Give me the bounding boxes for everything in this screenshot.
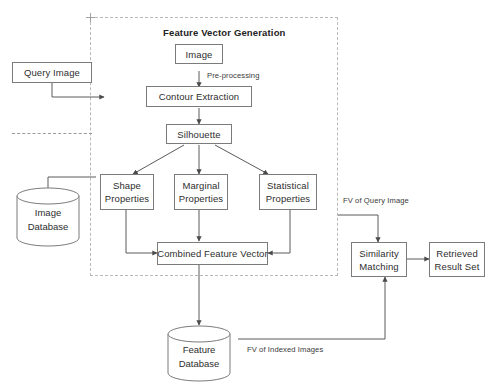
node-silhouette[interactable]: Silhouette [166, 124, 232, 144]
node-shape-properties[interactable]: Shape Properties [100, 174, 154, 210]
node-query-image-label: Query Image [24, 66, 80, 79]
edge-label-fv-of-indexed-images: FV of Indexed Images [247, 345, 323, 354]
image-database-cylinder[interactable]: Image Database [15, 186, 81, 248]
diagram-canvas: Feature Vector Generation [0, 0, 496, 385]
node-similarity-matching-label-line2: Matching [359, 260, 398, 273]
offline-online-divider [12, 133, 92, 134]
image-database-label-line1: Image [15, 206, 81, 220]
node-retrieved-result-set-label-line1: Retrieved [436, 247, 478, 260]
corner-crosshair-marker [86, 13, 95, 22]
node-shape-properties-label-line1: Shape [113, 179, 141, 192]
feature-database-label-line1: Feature [166, 343, 232, 357]
node-statistical-properties[interactable]: Statistical Properties [259, 174, 317, 210]
wire-feature-database-to-similarity [238, 277, 385, 339]
node-retrieved-result-set-label-line2: Result Set [435, 260, 480, 273]
node-marginal-properties-label-line2: Properties [179, 192, 223, 205]
node-contour-extraction[interactable]: Contour Extraction [146, 86, 252, 107]
node-similarity-matching[interactable]: Similarity Matching [351, 242, 407, 277]
node-retrieved-result-set[interactable]: Retrieved Result Set [429, 242, 485, 277]
wire-fv-query-to-similarity [338, 215, 378, 242]
node-statistical-properties-label-line1: Statistical [267, 179, 309, 192]
feature-database-cylinder[interactable]: Feature Database [166, 325, 232, 383]
node-query-image[interactable]: Query Image [12, 62, 92, 83]
node-image-label: Image [186, 48, 213, 61]
node-combined-feature-vector-label: Combined Feature Vector [157, 247, 268, 260]
edge-label-fv-of-query-image: FV of Query Image [343, 196, 409, 205]
node-shape-properties-label-line2: Properties [105, 192, 149, 205]
node-similarity-matching-label-line1: Similarity [359, 247, 399, 260]
node-image[interactable]: Image [175, 44, 223, 64]
edge-label-pre-processing: Pre-processing [207, 71, 259, 80]
node-marginal-properties-label-line1: Marginal [182, 179, 219, 192]
node-statistical-properties-label-line2: Properties [266, 192, 310, 205]
feature-vector-generation-group-title: Feature Vector Generation [163, 27, 286, 38]
node-contour-extraction-label: Contour Extraction [159, 90, 239, 103]
feature-database-label-line2: Database [166, 357, 232, 371]
node-silhouette-label: Silhouette [177, 128, 220, 141]
node-marginal-properties[interactable]: Marginal Properties [174, 174, 228, 210]
image-database-label-line2: Database [15, 220, 81, 234]
node-combined-feature-vector[interactable]: Combined Feature Vector [157, 242, 268, 265]
